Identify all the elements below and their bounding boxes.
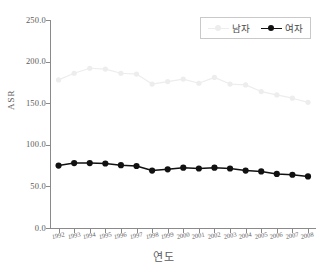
data-point[interactable] [181,76,186,81]
x-tick-label: 1995 [98,231,112,240]
data-point[interactable] [289,172,295,178]
x-tick-label: 2008 [300,231,314,240]
x-tick-label: 2001 [191,231,205,240]
y-tick-mark [46,228,50,229]
x-tick-label: 2000 [176,231,190,240]
data-point[interactable] [305,173,311,179]
data-point[interactable] [196,165,202,171]
legend: 남자 여자 [200,17,311,39]
x-tick-label: 2003 [223,231,237,240]
data-point[interactable] [227,81,232,86]
data-point[interactable] [165,166,171,172]
line-chart: ASR 0.050.0100.0150.0200.0250.0 19921993… [0,0,327,269]
series-line-male [59,68,308,102]
data-point[interactable] [305,100,310,105]
data-point[interactable] [180,165,186,171]
legend-item-female[interactable]: 여자 [261,21,303,35]
data-point[interactable] [258,168,264,174]
y-tick-label: 100.0 [26,140,46,149]
data-point[interactable] [71,160,77,166]
data-point[interactable] [72,71,77,76]
data-point[interactable] [149,167,155,173]
data-point[interactable] [196,81,201,86]
data-point[interactable] [87,66,92,71]
data-point[interactable] [243,82,248,87]
x-tick-label: 2006 [269,231,283,240]
x-tick-label: 2005 [254,231,268,240]
data-point[interactable] [87,160,93,166]
data-point[interactable] [103,66,108,71]
data-point[interactable] [55,163,61,169]
data-point[interactable] [227,165,233,171]
legend-label-male: 남자 [232,21,250,35]
data-point[interactable] [118,71,123,76]
y-tick-label: 50.0 [30,182,46,191]
x-tick-label: 1997 [129,231,143,240]
data-point[interactable] [134,71,139,76]
x-tick-label: 2004 [238,231,252,240]
data-point[interactable] [212,75,217,80]
y-tick-label: 200.0 [26,57,46,66]
legend-swatch-female-icon [261,24,282,33]
data-point[interactable] [211,165,217,171]
data-point[interactable] [56,77,61,82]
x-tick-label: 1998 [145,231,159,240]
data-point[interactable] [133,163,139,169]
y-tick-label: 150.0 [26,99,46,108]
y-tick-label: 250.0 [26,16,46,25]
data-point[interactable] [290,96,295,101]
data-point[interactable] [165,79,170,84]
x-axis-title: 연도 [0,248,327,264]
x-tick-label: 1992 [51,231,65,240]
legend-item-male[interactable]: 남자 [208,21,250,35]
x-tick-label: 1993 [67,231,81,240]
x-tick-label: 1994 [82,231,96,240]
legend-swatch-male-icon [208,24,229,33]
data-point[interactable] [102,160,108,166]
data-point[interactable] [150,81,155,86]
series-canvas [50,20,315,228]
x-tick-label: 2007 [285,231,299,240]
x-tick-label: 1996 [113,231,127,240]
y-axis-title: ASR [6,89,16,110]
legend-label-female: 여자 [285,21,303,35]
x-tick-label: 1999 [160,231,174,240]
plot-area [50,20,315,228]
data-point[interactable] [259,89,264,94]
y-tick-label: 0.0 [35,224,46,233]
data-point[interactable] [274,92,279,97]
data-point[interactable] [274,171,280,177]
data-point[interactable] [243,167,249,173]
data-point[interactable] [118,162,124,168]
x-tick-label: 2002 [207,231,221,240]
